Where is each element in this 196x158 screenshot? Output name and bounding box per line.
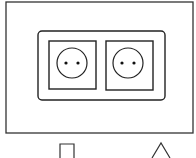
- socket-right-pin-2: [132, 61, 135, 64]
- socket-left-outlet: [57, 48, 87, 78]
- square-symbol-icon: [60, 144, 74, 158]
- socket-diagram: [0, 0, 196, 158]
- socket-right: [106, 41, 153, 90]
- socket-right-outlet: [113, 48, 143, 78]
- socket-left-pin-1: [64, 61, 67, 64]
- socket-left: [49, 41, 96, 89]
- socket-left-pin-2: [76, 61, 79, 64]
- socket-right-pin-1: [120, 61, 123, 64]
- triangle-symbol-icon: [152, 143, 170, 158]
